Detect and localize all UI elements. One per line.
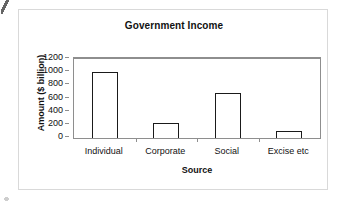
y-axis-tick-label: 800 (48, 79, 63, 88)
y-axis-tick-mark (65, 57, 69, 58)
y-axis-tick-labels: 020040060080010001200 (17, 52, 69, 144)
y-axis-tick-label: 200 (48, 119, 63, 128)
x-axis-tick-label: Excise etc (268, 146, 309, 156)
bar-individual (92, 72, 118, 138)
y-axis-tick-mark (65, 110, 69, 111)
scan-artifact-bottom-left (3, 196, 10, 202)
y-axis-tick-mark (65, 70, 69, 71)
y-axis-tick-mark (65, 123, 69, 124)
y-axis-tick-mark (65, 97, 69, 98)
y-axis-tick-label: 1000 (43, 66, 63, 75)
x-axis-tick-mark (197, 138, 198, 142)
bar-corporate (153, 123, 179, 138)
x-axis-tick-mark (136, 138, 137, 142)
y-axis-tick-mark (65, 83, 69, 84)
y-axis-tick-label: 400 (48, 106, 63, 115)
y-axis-tick-mark (65, 136, 69, 137)
x-axis-tick-label: Social (214, 146, 239, 156)
scan-artifact-top-left (1, 0, 10, 14)
bar-excise-etc (276, 131, 302, 138)
chart-figure-frame: Government Income Amount ($ billion) 020… (18, 9, 328, 190)
x-axis-tick-label: Corporate (145, 146, 185, 156)
bar-social (215, 93, 241, 138)
x-axis-title: Source (73, 165, 321, 175)
y-axis-tick-label: 1200 (43, 53, 63, 62)
x-axis-tick-label: Individual (85, 146, 123, 156)
chart-title: Government Income (19, 20, 329, 31)
x-axis-tick-labels: IndividualCorporateSocialExcise etc (73, 146, 321, 160)
x-axis-tick-mark (259, 138, 260, 142)
y-axis-tick-label: 600 (48, 93, 63, 102)
y-axis-tick-label: 0 (58, 132, 63, 141)
plot-area (73, 57, 321, 139)
